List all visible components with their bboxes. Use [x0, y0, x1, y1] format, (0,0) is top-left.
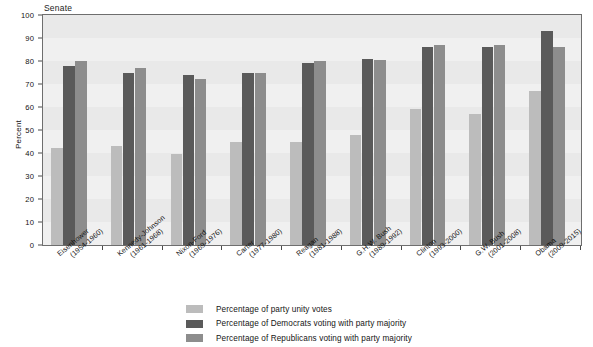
y-axis-tick-label: 10 — [25, 218, 34, 227]
legend-label: Percentage of Democrats voting with part… — [216, 319, 406, 328]
x-axis-tick-mark — [162, 246, 163, 250]
bar — [183, 75, 195, 245]
y-axis-tick-label: 90 — [25, 34, 34, 43]
bar — [123, 73, 135, 246]
bar — [242, 73, 254, 246]
chart-legend: Percentage of party unity votes Percenta… — [186, 302, 412, 346]
x-axis-tick-mark — [401, 246, 402, 250]
legend-item: Percentage of party unity votes — [186, 302, 412, 317]
y-axis-tick-label: 20 — [25, 195, 34, 204]
y-axis: Percent 0102030405060708090100 — [0, 14, 42, 246]
bar — [434, 45, 446, 245]
legend-item: Percentage of Democrats voting with part… — [186, 317, 412, 332]
legend-item: Percentage of Republicans voting with pa… — [186, 331, 412, 346]
x-axis-tick-mark — [281, 246, 282, 250]
bar — [51, 148, 63, 245]
senate-party-unity-bar-chart: Senate Percent 0102030405060708090100 Ei… — [0, 0, 593, 347]
bar — [529, 91, 541, 245]
bar — [290, 142, 302, 246]
plot-title: Senate — [44, 3, 72, 13]
y-axis-tick-label: 80 — [25, 57, 34, 66]
x-axis-tick-mark — [221, 246, 222, 250]
y-axis-tick-label: 100 — [21, 11, 34, 20]
legend-label: Percentage of party unity votes — [216, 305, 332, 314]
y-axis-tick-label: 60 — [25, 103, 34, 112]
bar — [75, 61, 87, 245]
legend-label: Percentage of Republicans voting with pa… — [216, 334, 412, 343]
bar — [374, 60, 386, 245]
bar — [469, 114, 481, 245]
bar — [314, 61, 326, 245]
bar — [541, 31, 553, 245]
bar — [410, 109, 422, 245]
bar — [135, 68, 147, 245]
legend-swatch-party-unity — [186, 305, 203, 313]
bar — [553, 47, 565, 245]
bar — [230, 142, 242, 246]
y-axis-title: Percent — [14, 100, 23, 170]
bar — [494, 45, 506, 245]
x-axis-tick-mark — [520, 246, 521, 250]
x-axis-tick-mark — [460, 246, 461, 250]
bar — [171, 154, 183, 245]
bar — [482, 47, 494, 245]
x-axis-tick-mark — [580, 246, 581, 250]
legend-swatch-republicans — [186, 334, 203, 342]
bar — [255, 73, 267, 246]
y-axis-tick-label: 0 — [30, 241, 34, 250]
bar — [111, 146, 123, 245]
x-axis-tick-mark — [341, 246, 342, 250]
bar — [350, 135, 362, 245]
bar — [63, 66, 75, 245]
y-axis-tick-label: 50 — [25, 126, 34, 135]
bar — [302, 63, 314, 245]
bar — [362, 59, 374, 245]
bar — [422, 47, 434, 245]
bar — [195, 79, 207, 245]
y-axis-tick-label: 40 — [25, 149, 34, 158]
y-axis-tick-label: 70 — [25, 80, 34, 89]
legend-swatch-democrats — [186, 320, 203, 328]
plot-area — [42, 14, 582, 246]
background-band — [43, 15, 581, 38]
x-axis-tick-mark — [102, 246, 103, 250]
y-axis-tick-label: 30 — [25, 172, 34, 181]
